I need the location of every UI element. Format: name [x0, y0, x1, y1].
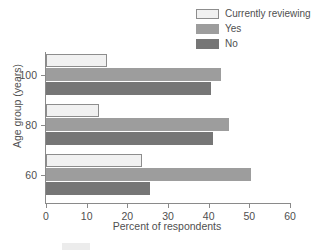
chart-legend: Currently reviewingYesNo	[196, 7, 311, 52]
plot-area: 01020304050601008060	[45, 52, 290, 204]
x-axis-tick	[168, 203, 169, 208]
legend-label: No	[225, 39, 238, 49]
y-axis-tick-label: 80	[25, 119, 46, 131]
bar	[46, 154, 142, 167]
bar	[46, 118, 229, 131]
x-axis-tick	[46, 203, 47, 208]
legend-swatch-icon	[196, 39, 219, 49]
x-axis-tick	[290, 203, 291, 208]
legend-swatch-icon	[196, 24, 219, 34]
bar	[46, 168, 251, 181]
legend-swatch-icon	[196, 9, 219, 19]
x-axis-tick	[127, 203, 128, 208]
x-axis-label: Percent of respondents	[45, 220, 289, 232]
bar	[46, 104, 99, 117]
scan-artifact	[62, 243, 90, 250]
bar	[46, 132, 213, 145]
legend-label: Yes	[225, 24, 241, 34]
legend-item[interactable]: Currently reviewing	[196, 7, 311, 20]
legend-label: Currently reviewing	[225, 9, 311, 19]
bar	[46, 68, 221, 81]
chart-figure: Currently reviewingYesNo 010203040506010…	[0, 0, 322, 252]
x-axis-tick	[87, 203, 88, 208]
y-axis-label: Age group (years)	[11, 41, 23, 171]
legend-item[interactable]: No	[196, 37, 311, 50]
legend-item[interactable]: Yes	[196, 22, 311, 35]
y-axis-tick-label: 100	[19, 69, 46, 81]
y-axis-tick-label: 60	[25, 169, 46, 181]
bar	[46, 54, 107, 67]
x-axis-tick	[209, 203, 210, 208]
bar	[46, 182, 150, 195]
bar	[46, 82, 211, 95]
x-axis-tick	[249, 203, 250, 208]
